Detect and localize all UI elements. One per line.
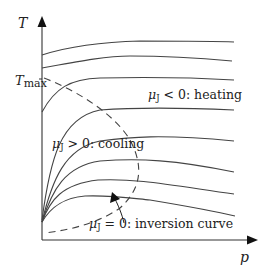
inversion-curve — [44, 78, 139, 233]
y-axis-arrow-icon — [38, 16, 47, 27]
isenthalp-1 — [42, 41, 234, 55]
x-axis-arrow-icon — [247, 236, 258, 245]
isenthalp-curves — [42, 41, 235, 222]
inversion-label: μJ = 0: inversion curve — [89, 216, 233, 232]
isenthalp-2 — [42, 56, 232, 68]
y-axis-label: T — [18, 15, 29, 31]
jt-diagram: T p Tmax μJ < 0: heating μJ > 0: cooling… — [0, 0, 274, 277]
tmax-label: Tmax — [15, 73, 48, 90]
x-axis-label: p — [240, 249, 249, 265]
inversion-pointer-arrow-icon — [110, 192, 120, 203]
cooling-label: μJ > 0: cooling — [52, 136, 144, 152]
isenthalp-6 — [42, 160, 234, 222]
heating-label: μJ < 0: heating — [148, 87, 242, 103]
